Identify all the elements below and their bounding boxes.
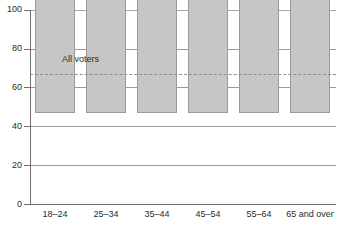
y-axis-tick-label-40: 40 [0, 122, 22, 131]
x-axis-labels: 18–24 25–34 35–44 45–54 55–64 65 and ove… [30, 208, 336, 224]
all-voters-label: All voters [62, 54, 99, 64]
x-axis-tick-label-45-54: 45–54 [183, 208, 233, 220]
x-axis-tick-label-18-24: 18–24 [30, 208, 80, 220]
bar-55-64 [239, 0, 279, 113]
gridline-20 [30, 165, 336, 166]
x-axis-tick-label-35-44: 35–44 [132, 208, 182, 220]
y-axis-tick-label-0: 0 [0, 200, 22, 209]
y-axis-tick-label-60: 60 [0, 83, 22, 92]
x-axis-tick-label-65-and-over: 65 and over [282, 208, 338, 220]
all-voters-reference-line [30, 74, 336, 75]
bar-45-54 [188, 0, 228, 113]
x-axis-tick-label-55-64: 55–64 [234, 208, 284, 220]
bar-chart: 100 80 60 40 20 0 All voters 18–24 25–34… [0, 0, 343, 87]
gridline-40 [30, 126, 336, 127]
y-axis-tick-label-100: 100 [0, 5, 22, 14]
bar-35-44 [137, 0, 177, 113]
x-axis-tick-label-25-34: 25–34 [81, 208, 131, 220]
x-axis-line [30, 204, 336, 205]
y-axis-labels: 100 80 60 40 20 0 [0, 0, 22, 225]
y-axis-tick-label-20: 20 [0, 161, 22, 170]
y-axis-tick-label-80: 80 [0, 44, 22, 53]
bar-65-and-over [290, 0, 330, 113]
